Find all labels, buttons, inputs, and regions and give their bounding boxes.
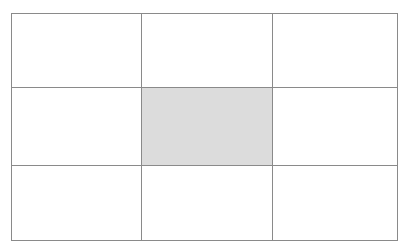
grid-cell-r2c2[interactable] xyxy=(273,166,398,241)
grid-cell-r0c2[interactable] xyxy=(273,14,398,88)
grid-cell-r0c1[interactable] xyxy=(142,14,273,88)
grid-row xyxy=(12,14,398,88)
grid-cell-r2c0[interactable] xyxy=(12,166,142,241)
grid-cell-r1c1-highlighted[interactable] xyxy=(142,88,273,166)
grid-row xyxy=(12,166,398,241)
grid-cell-r2c1[interactable] xyxy=(142,166,273,241)
grid-table xyxy=(11,13,398,241)
grid-cell-r0c0[interactable] xyxy=(12,14,142,88)
figure-canvas xyxy=(0,0,410,252)
grid-cell-r1c2[interactable] xyxy=(273,88,398,166)
grid-row xyxy=(12,88,398,166)
grid-cell-r1c0[interactable] xyxy=(12,88,142,166)
grid-body xyxy=(12,14,398,241)
